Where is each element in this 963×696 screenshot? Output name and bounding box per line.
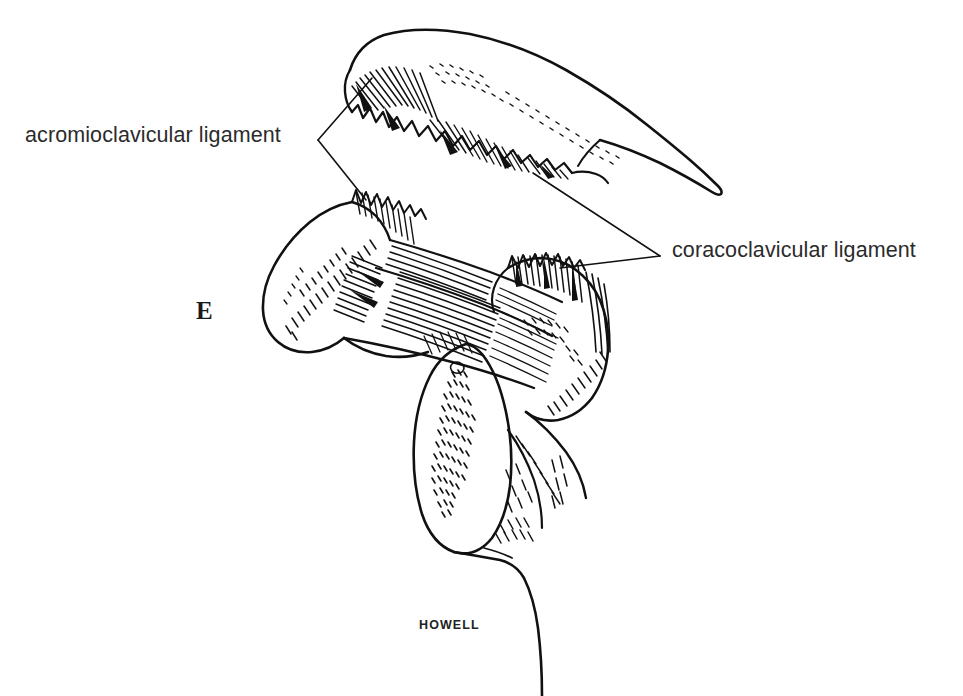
- anatomical-figure-panel-e: acromioclavicular ligament coracoclavicu…: [0, 0, 963, 696]
- artist-signature: HOWELL: [419, 618, 480, 632]
- label-coracoclavicular-ligament: coracoclavicular ligament: [672, 238, 916, 263]
- label-acromioclavicular-ligament: acromioclavicular ligament: [25, 123, 281, 148]
- shoulder-ligament-illustration: [0, 0, 963, 696]
- panel-letter: E: [196, 297, 213, 325]
